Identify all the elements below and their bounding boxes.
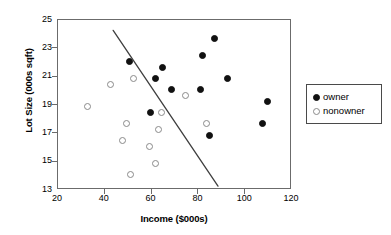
y-tick-label: 25	[26, 15, 52, 24]
data-point-nonowner	[152, 160, 159, 167]
x-axis-title: Income ($000s)	[57, 213, 291, 224]
y-tick-label: 23	[26, 43, 52, 52]
x-tick-label: 40	[87, 194, 121, 203]
legend-label-owner: owner	[323, 92, 349, 102]
y-tick-mark	[52, 161, 57, 162]
data-point-owner	[206, 132, 213, 139]
data-point-owner	[159, 64, 166, 71]
data-point-nonowner	[158, 109, 165, 116]
x-tick-mark	[244, 189, 245, 194]
legend-item-owner[interactable]: owner	[313, 90, 377, 104]
legend-label-nonowner: nonowner	[323, 106, 365, 116]
x-tick-label: 60	[134, 194, 168, 203]
open-circle-icon	[313, 108, 320, 115]
y-tick-mark	[52, 132, 57, 133]
data-point-nonowner	[123, 120, 130, 127]
data-point-owner	[199, 52, 206, 59]
y-tick-mark	[52, 47, 57, 48]
y-tick-label: 17	[26, 128, 52, 137]
legend: owner nonowner	[306, 84, 382, 124]
data-point-nonowner	[130, 75, 137, 82]
plot-area	[57, 19, 291, 189]
x-tick-mark	[151, 189, 152, 194]
x-tick-label: 20	[40, 194, 74, 203]
y-tick-mark	[52, 76, 57, 77]
x-tick-mark	[104, 189, 105, 194]
y-tick-label: 19	[26, 100, 52, 109]
x-tick-label: 120	[274, 194, 308, 203]
x-tick-label: 100	[227, 194, 261, 203]
y-tick-label: 15	[26, 156, 52, 165]
x-tick-label: 80	[180, 194, 214, 203]
legend-item-nonowner[interactable]: nonowner	[313, 104, 377, 118]
y-tick-label: 21	[26, 71, 52, 80]
y-axis-title: Lot Size (000s sqft)	[23, 11, 34, 171]
y-tick-label: 13	[26, 185, 52, 194]
y-tick-mark	[52, 104, 57, 105]
data-point-owner	[152, 75, 159, 82]
data-point-owner	[126, 58, 133, 65]
scatter-plot-figure: Lot Size (000s sqft) Income ($000s) 1315…	[0, 0, 391, 235]
data-point-owner	[264, 98, 271, 105]
data-point-nonowner	[107, 81, 114, 88]
filled-circle-icon	[313, 94, 320, 101]
data-point-nonowner	[146, 143, 153, 150]
x-tick-mark	[197, 189, 198, 194]
